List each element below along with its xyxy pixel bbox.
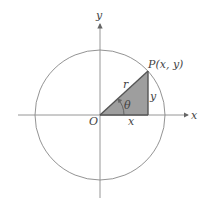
radius-label: r — [123, 78, 129, 91]
x-axis-label: x — [191, 109, 198, 122]
angle-label: θ — [124, 99, 131, 112]
adjacent-label: x — [128, 115, 135, 128]
opposite-label: y — [149, 90, 157, 103]
origin-label: O — [89, 115, 98, 128]
polar-coordinates-diagram: y x O P(x, y) r θ x y — [0, 0, 211, 207]
point-label: P(x, y) — [147, 58, 183, 71]
y-axis-label: y — [95, 9, 103, 22]
